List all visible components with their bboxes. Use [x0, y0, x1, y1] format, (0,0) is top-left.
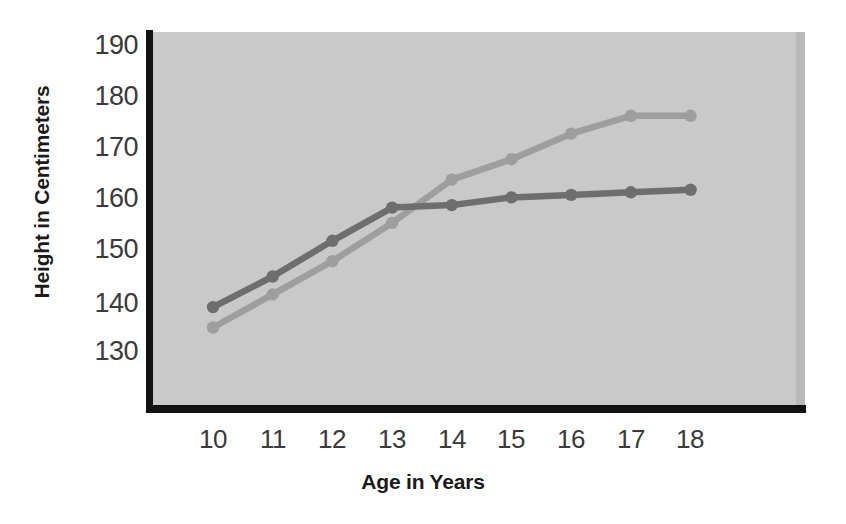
x-tick-label-12: 12: [309, 424, 355, 455]
x-tick-label-13: 13: [369, 424, 415, 455]
x-tick-label-15: 15: [488, 424, 534, 455]
plot-area-background: [152, 32, 804, 408]
x-axis-title: Age in Years: [0, 470, 846, 494]
y-axis-line: [146, 30, 153, 412]
x-tick-label-18: 18: [667, 424, 713, 455]
y-tick-label-130: 130: [76, 336, 138, 367]
plot-area-right-shade: [796, 32, 805, 408]
y-tick-label-160: 160: [76, 183, 138, 214]
y-tick-label-170: 170: [76, 132, 138, 163]
y-tick-label-140: 140: [76, 288, 138, 319]
y-tick-label-150: 150: [76, 234, 138, 265]
x-axis-line: [146, 405, 806, 413]
y-tick-label-190: 190: [76, 30, 138, 61]
x-tick-label-14: 14: [429, 424, 475, 455]
y-tick-label-180: 180: [76, 81, 138, 112]
x-tick-label-11: 11: [250, 424, 296, 455]
x-tick-label-10: 10: [190, 424, 236, 455]
line-chart: Height in Centimeters Age in Years 190 1…: [0, 0, 846, 524]
x-tick-label-17: 17: [608, 424, 654, 455]
y-axis-title: Height in Centimeters: [30, 62, 54, 322]
x-tick-label-16: 16: [548, 424, 594, 455]
